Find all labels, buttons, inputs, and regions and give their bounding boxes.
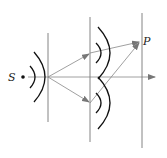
lower-slit-wavefront-large: [98, 77, 110, 129]
ray-to-upper-slit: [48, 54, 89, 77]
source-dot: [21, 75, 25, 79]
ray-to-lower-slit: [48, 77, 89, 102]
double-slit-diagram: S P: [0, 0, 167, 158]
source-label: S: [8, 71, 16, 84]
upper-slit-wavefront-large: [98, 27, 110, 79]
lower-slit-wavefront-small: [96, 93, 101, 113]
point-p-label: P: [142, 35, 151, 48]
upper-slit-wavefront-small: [96, 43, 101, 63]
